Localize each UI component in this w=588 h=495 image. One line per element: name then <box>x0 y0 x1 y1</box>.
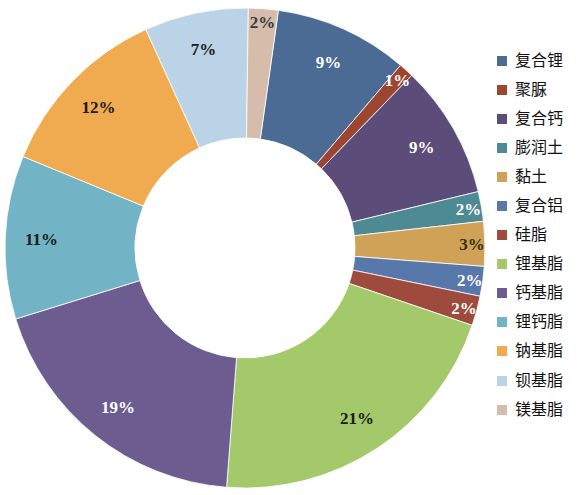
legend-swatch-icon <box>497 405 507 415</box>
legend-swatch-icon <box>497 230 507 240</box>
legend-item[interactable]: 钙基脂 <box>497 279 588 308</box>
legend-item[interactable]: 黏土 <box>497 162 588 191</box>
legend-swatch-icon <box>497 114 507 124</box>
legend-item[interactable]: 膨润土 <box>497 133 588 162</box>
legend-item-label: 硅脂 <box>515 227 547 243</box>
legend-swatch-icon <box>497 288 507 298</box>
legend-item-label: 锂基脂 <box>515 256 563 272</box>
legend-item[interactable]: 硅脂 <box>497 221 588 250</box>
legend-swatch-icon <box>497 317 507 327</box>
legend-item[interactable]: 钠基脂 <box>497 337 588 366</box>
legend-item-label: 复合铝 <box>515 198 563 214</box>
legend-item[interactable]: 复合锂 <box>497 46 588 75</box>
legend-swatch-icon <box>497 143 507 153</box>
donut-slice-group <box>5 8 485 488</box>
legend-item-label: 复合钙 <box>515 111 563 127</box>
legend-swatch-icon <box>497 259 507 269</box>
donut-slice[interactable] <box>227 283 473 488</box>
legend-item-label: 镁基脂 <box>515 402 563 418</box>
legend-swatch-icon <box>497 85 507 95</box>
chart-page: 9%1%9%2%3%2%2%21%19%11%12%7%2% 复合锂聚脲复合钙膨… <box>0 0 588 495</box>
legend-item-label: 聚脲 <box>515 82 547 98</box>
legend-item[interactable]: 锂钙脂 <box>497 308 588 337</box>
legend-swatch-icon <box>497 172 507 182</box>
donut-chart: 9%1%9%2%3%2%2%21%19%11%12%7%2% <box>0 0 490 495</box>
legend-swatch-icon <box>497 201 507 211</box>
legend-item-label: 复合锂 <box>515 53 563 69</box>
legend-item-label: 膨润土 <box>515 140 563 156</box>
legend-item-label: 钠基脂 <box>515 343 563 359</box>
legend-item[interactable]: 镁基脂 <box>497 395 588 424</box>
legend-item[interactable]: 锂基脂 <box>497 250 588 279</box>
legend-item-label: 钡基脂 <box>515 373 563 389</box>
legend-swatch-icon <box>497 376 507 386</box>
legend-item[interactable]: 聚脲 <box>497 75 588 104</box>
legend-item-label: 钙基脂 <box>515 285 563 301</box>
legend-item-label: 黏土 <box>515 169 547 185</box>
legend-swatch-icon <box>497 56 507 66</box>
legend-item-label: 锂钙脂 <box>515 314 563 330</box>
legend-item[interactable]: 钡基脂 <box>497 366 588 395</box>
legend-item[interactable]: 复合钙 <box>497 104 588 133</box>
legend-item[interactable]: 复合铝 <box>497 191 588 220</box>
donut-slice[interactable] <box>16 281 237 488</box>
legend-swatch-icon <box>497 346 507 356</box>
donut-chart-svg: 9%1%9%2%3%2%2%21%19%11%12%7%2% <box>0 0 490 495</box>
chart-legend: 复合锂聚脲复合钙膨润土黏土复合铝硅脂锂基脂钙基脂锂钙脂钠基脂钡基脂镁基脂 <box>497 46 588 424</box>
